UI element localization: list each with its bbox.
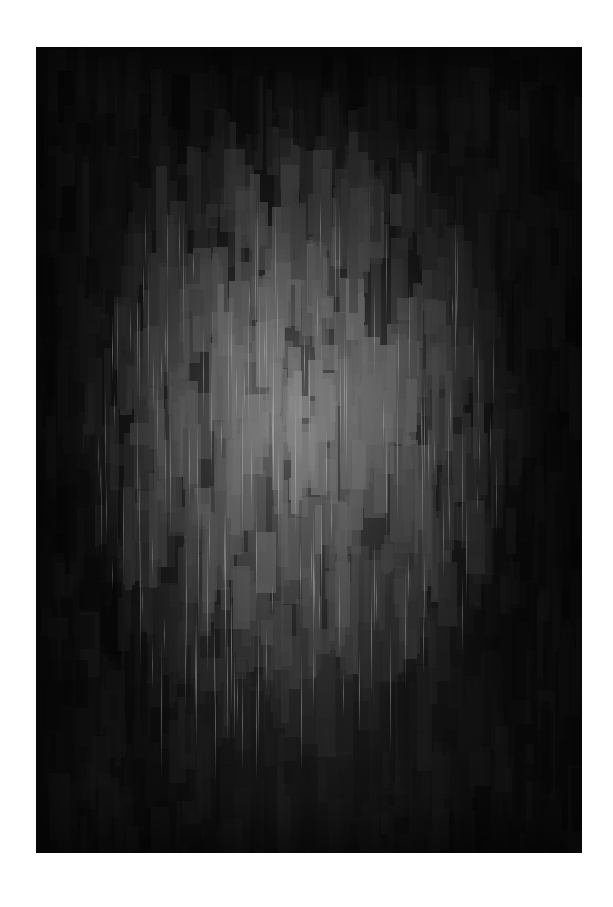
light-streak — [145, 208, 146, 266]
mosaic-tile — [532, 350, 543, 454]
mosaic-tile — [335, 679, 355, 751]
mosaic-tile — [49, 773, 70, 840]
mosaic-tile — [574, 170, 582, 277]
mosaic-tile — [469, 747, 490, 786]
light-streak — [313, 642, 314, 709]
mosaic-tile — [240, 423, 260, 448]
light-streak — [231, 577, 232, 714]
mosaic-tile — [300, 578, 309, 627]
light-streak — [295, 396, 296, 536]
mosaic-tile — [395, 566, 408, 617]
light-streak — [242, 671, 243, 771]
mosaic-tile — [290, 203, 306, 280]
light-streak — [167, 205, 168, 288]
mosaic-tile — [569, 347, 582, 440]
light-streak — [153, 352, 154, 414]
light-streak — [278, 443, 279, 530]
light-streak — [143, 259, 144, 310]
mosaic-tile — [558, 236, 565, 340]
light-streak — [462, 573, 463, 654]
mosaic-tile — [250, 691, 264, 780]
light-streak — [331, 495, 332, 543]
mosaic-tile — [554, 89, 563, 149]
light-streak — [473, 318, 474, 365]
light-streak — [258, 614, 259, 754]
light-streak — [203, 326, 204, 422]
light-streak — [493, 338, 494, 409]
mosaic-tile — [261, 620, 273, 645]
light-streak — [448, 402, 449, 524]
mosaic-tile — [80, 323, 96, 383]
mosaic-tile — [497, 103, 518, 210]
mosaic-tile — [529, 90, 546, 195]
light-streak — [339, 570, 340, 657]
mosaic-tile — [424, 299, 438, 334]
mosaic-tile — [313, 802, 328, 853]
mosaic-tile — [393, 413, 406, 485]
light-streak — [266, 292, 267, 411]
light-streak — [98, 434, 99, 478]
mosaic-tile — [270, 132, 291, 157]
mosaic-tile — [438, 562, 457, 626]
light-streak — [189, 422, 190, 507]
light-streak — [490, 414, 491, 465]
light-streak — [457, 234, 458, 320]
light-streak — [234, 649, 235, 741]
mosaic-tile — [269, 363, 281, 413]
light-streak — [137, 295, 138, 345]
light-streak — [186, 533, 187, 668]
mosaic-tile — [397, 298, 413, 320]
mosaic-tile — [149, 473, 157, 560]
light-streak — [386, 215, 387, 325]
light-streak — [105, 384, 106, 491]
light-streak — [301, 647, 302, 772]
light-streak — [371, 574, 372, 696]
mosaic-tile — [505, 792, 514, 853]
light-streak — [231, 307, 232, 391]
mosaic-tile — [235, 186, 253, 235]
mosaic-tile — [65, 841, 72, 853]
mosaic-tile — [409, 682, 429, 768]
abstract-artwork: Abstract grayscale mosaic of vertical re… — [36, 47, 582, 853]
mosaic-tile — [264, 766, 277, 853]
light-streak — [397, 386, 398, 522]
mosaic-tile — [565, 435, 574, 501]
mosaic-tile — [220, 763, 236, 853]
mosaic-tile — [128, 212, 135, 281]
mosaic-tile — [559, 640, 569, 711]
mosaic-tile — [515, 751, 522, 773]
mosaic-tile — [383, 752, 389, 788]
mosaic-tile — [308, 92, 314, 137]
mosaic-tile — [76, 123, 91, 144]
light-streak — [320, 196, 321, 261]
mosaic-tile — [92, 736, 110, 787]
mosaic-tile — [469, 513, 490, 557]
light-streak — [165, 425, 166, 512]
light-streak — [139, 304, 140, 414]
mosaic-tile — [323, 459, 336, 491]
light-streak — [209, 512, 210, 569]
light-streak — [346, 337, 347, 474]
light-streak — [167, 284, 168, 412]
mosaic-tile — [57, 341, 69, 437]
mosaic-tile — [495, 726, 508, 792]
light-streak — [237, 671, 238, 725]
mosaic-tile — [384, 535, 405, 568]
light-streak — [478, 340, 479, 425]
light-streak — [114, 392, 115, 429]
mosaic-tile — [532, 257, 545, 332]
mosaic-tile — [286, 411, 294, 439]
mosaic-tile — [286, 279, 301, 326]
mosaic-tile — [78, 47, 85, 96]
light-streak — [428, 424, 429, 485]
mosaic-tile — [308, 360, 323, 396]
mosaic-tile — [349, 207, 358, 313]
mosaic-tile — [444, 225, 464, 287]
light-streak — [255, 218, 256, 356]
light-streak — [300, 540, 301, 608]
mosaic-tile — [316, 650, 336, 757]
light-streak — [343, 670, 344, 717]
mosaic-tile — [408, 601, 417, 629]
mosaic-tile — [82, 156, 89, 256]
mosaic-tile — [126, 827, 139, 853]
